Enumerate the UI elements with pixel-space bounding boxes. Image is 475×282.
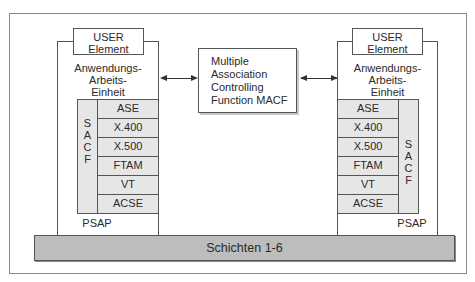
- unit-title-line: Einheit: [57, 86, 159, 98]
- left-user-element: USER Element: [73, 28, 144, 55]
- unit-title-line: Anwendungs-: [57, 62, 159, 74]
- left-layer-ftam: FTAM: [97, 156, 159, 176]
- right-sacf-column: S A C F: [398, 99, 419, 214]
- element-label: Element: [353, 43, 422, 55]
- sacf-letter: F: [78, 153, 97, 165]
- user-label: USER: [74, 31, 143, 43]
- right-unit-title: Anwendungs- Arbeits- Einheit: [337, 62, 438, 98]
- sacf-letter: S: [399, 138, 418, 150]
- sacf-letter: S: [78, 117, 97, 129]
- left-psap-label: PSAP: [57, 217, 137, 229]
- right-layer-ase: ASE: [337, 99, 399, 119]
- left-layer-ase: ASE: [97, 99, 159, 119]
- left-layer-acse: ACSE: [97, 194, 159, 214]
- right-layer-acse: ACSE: [337, 194, 399, 214]
- unit-title-line: Arbeits-: [337, 74, 438, 86]
- sacf-letter: F: [399, 174, 418, 186]
- right-layer-ftam: FTAM: [337, 156, 399, 176]
- sacf-letter: A: [399, 150, 418, 162]
- unit-title-line: Arbeits-: [57, 74, 159, 86]
- user-label: USER: [353, 31, 422, 43]
- right-layer-vt: VT: [337, 175, 399, 195]
- left-layer-x400: X.400: [97, 118, 159, 138]
- unit-title-line: Einheit: [337, 86, 438, 98]
- sacf-letter: A: [78, 129, 97, 141]
- arrowhead-left-icon: [300, 75, 307, 81]
- macf-line: Multiple: [211, 55, 296, 68]
- right-psap-label: PSAP: [372, 217, 452, 229]
- macf-line: Function MACF: [211, 94, 296, 107]
- macf-line: Controlling: [211, 81, 296, 94]
- right-user-element: USER Element: [352, 28, 423, 55]
- right-layer-x500: X.500: [337, 137, 399, 157]
- sacf-letter: C: [78, 141, 97, 153]
- left-layer-vt: VT: [97, 175, 159, 195]
- element-label: Element: [74, 43, 143, 55]
- base-layers-bar: Schichten 1-6: [34, 235, 455, 261]
- arrowhead-right-icon: [191, 75, 198, 81]
- left-sacf-column: S A C F: [77, 99, 98, 214]
- unit-title-line: Anwendungs-: [337, 62, 438, 74]
- base-layers-label: Schichten 1-6: [206, 241, 282, 255]
- macf-line: Association: [211, 68, 296, 81]
- left-layer-x500: X.500: [97, 137, 159, 157]
- right-layer-x400: X.400: [337, 118, 399, 138]
- sacf-letter: C: [399, 162, 418, 174]
- left-unit-title: Anwendungs- Arbeits- Einheit: [57, 62, 159, 98]
- arrowhead-left-icon: [160, 75, 167, 81]
- macf-box: Multiple Association Controlling Functio…: [198, 48, 297, 113]
